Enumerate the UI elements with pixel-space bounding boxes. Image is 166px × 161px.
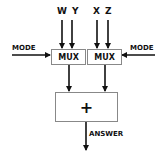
mode-left-label: MODE — [12, 45, 36, 52]
mode-right-label: MODE — [130, 45, 154, 52]
connector-lines — [0, 0, 166, 161]
mux-right-label: MUX — [94, 53, 115, 62]
answer-label: ANSWER — [89, 131, 123, 138]
mux-left-label: MUX — [58, 53, 79, 62]
inputs-right-label: X Z — [93, 7, 113, 16]
adder-label: + — [80, 98, 93, 117]
mux-right-box: MUX — [87, 49, 122, 65]
mux-left-box: MUX — [51, 49, 86, 65]
inputs-left-label: W Y — [57, 7, 80, 16]
adder-box: + — [55, 92, 118, 122]
